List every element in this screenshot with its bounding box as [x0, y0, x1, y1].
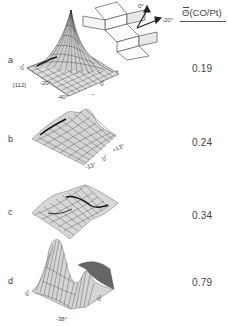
- inset-arrow-label-0: 0°: [138, 3, 144, 9]
- header-species: (CO/Pt): [189, 7, 221, 18]
- panel-label-a: a: [8, 55, 13, 65]
- coverage-value-d: 0.79: [192, 277, 212, 288]
- axis-label-a-minus40: -40°: [57, 94, 68, 100]
- direction-label-112: [112]: [13, 82, 26, 88]
- axis-label-a-minus20: -20°: [40, 80, 51, 86]
- panel-label-c: c: [8, 207, 13, 217]
- theta-overbar: [183, 7, 189, 8]
- coverage-value-a: 0.19: [192, 63, 212, 74]
- axis-label-a-minus: –: [91, 91, 94, 97]
- coverage-value-b: 0.24: [192, 137, 212, 148]
- surface-plot-d: [28, 235, 128, 315]
- surface-plot-b: [30, 105, 130, 175]
- axis-label-a-plus: +: [115, 68, 119, 74]
- coverage-value-c: 0.34: [192, 210, 212, 221]
- inset-arrow-label-minus20: -20°: [162, 17, 173, 23]
- panel-label-b: b: [8, 134, 13, 144]
- axis-label-d-minus38: -38°: [56, 316, 67, 322]
- coverage-header: Θ(CO/Pt): [182, 7, 222, 18]
- surface-plot-c: [30, 183, 130, 243]
- panel-label-d: d: [8, 276, 13, 286]
- header-underline: [180, 21, 226, 22]
